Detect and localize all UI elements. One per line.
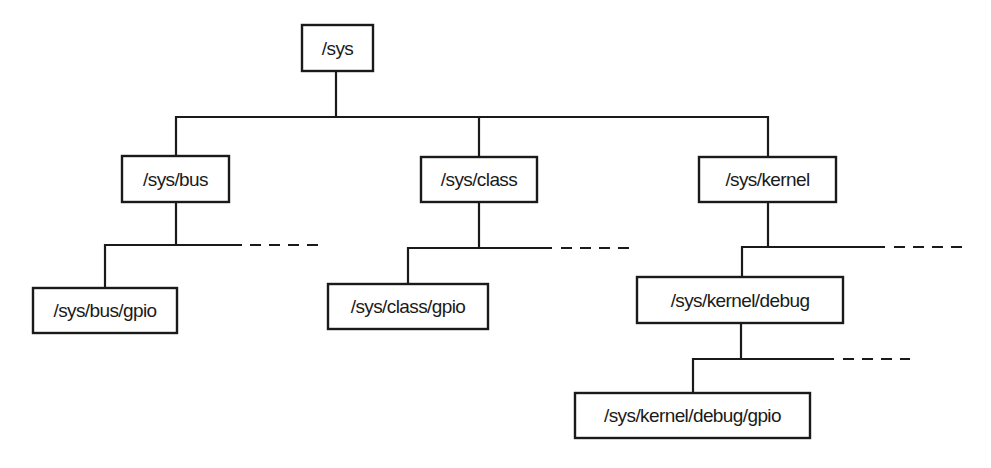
node-sys-kernel-debug-label: /sys/kernel/debug <box>671 290 810 311</box>
edges-sys-class <box>407 202 634 284</box>
node-sys-bus: /sys/bus <box>122 156 229 202</box>
node-sys-class: /sys/class <box>421 157 537 202</box>
edges-sys-bus <box>104 202 318 288</box>
node-sys-class-gpio: /sys/class/gpio <box>328 284 488 329</box>
node-sys-kernel: /sys/kernel <box>699 157 836 202</box>
node-sys-kernel-debug: /sys/kernel/debug <box>637 277 843 323</box>
edges-sys-kernel-debug <box>692 323 910 393</box>
node-sys-class-label: /sys/class <box>441 169 517 190</box>
edges-sys-kernel <box>741 202 964 277</box>
node-sys-kernel-label: /sys/kernel <box>725 169 809 190</box>
node-sys-class-gpio-label: /sys/class/gpio <box>351 296 466 317</box>
node-sys-bus-gpio-label: /sys/bus/gpio <box>53 300 156 321</box>
node-sys-kernel-debug-gpio-label: /sys/kernel/debug/gpio <box>604 405 781 426</box>
node-sys-bus-label: /sys/bus <box>143 169 208 190</box>
node-sys: /sys <box>302 25 373 71</box>
node-sys-kernel-debug-gpio: /sys/kernel/debug/gpio <box>575 393 810 438</box>
node-sys-bus-gpio: /sys/bus/gpio <box>33 288 177 333</box>
edges-root <box>176 71 768 157</box>
node-sys-label: /sys <box>322 38 353 59</box>
sysfs-tree-diagram: /sys /sys/bus /sys/class /sys/kernel /sy… <box>0 0 991 468</box>
